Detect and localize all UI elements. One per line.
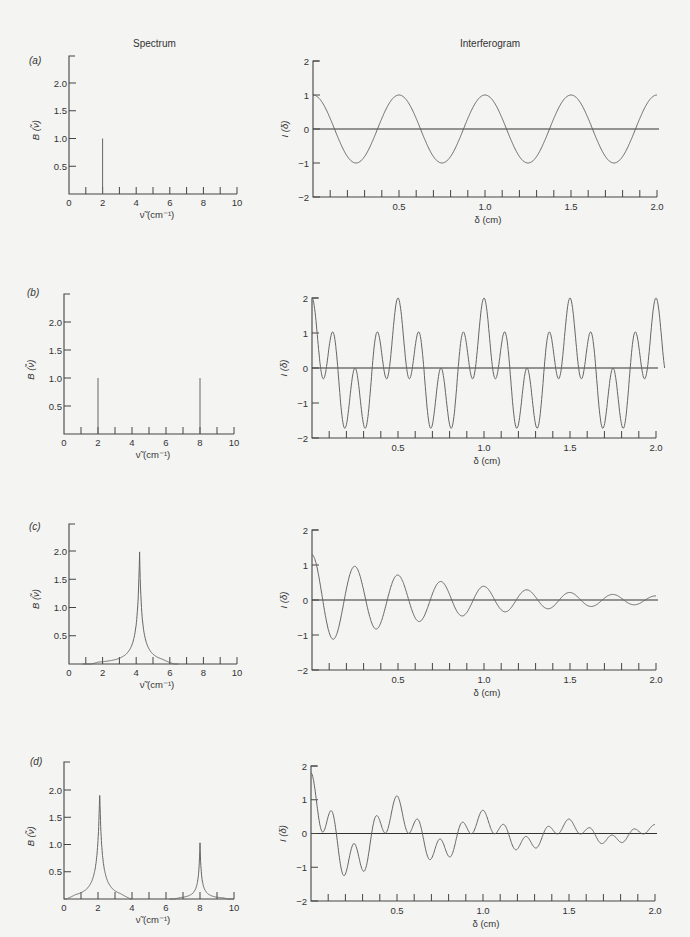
spectrum-x-label: ν̃ (cm⁻¹): [140, 679, 175, 690]
interferogram-y-tick: 2: [304, 56, 309, 67]
spectrum-x-tick: 0: [66, 667, 71, 678]
spectrum-plot: 02468100.51.01.52.0ν̃ (cm⁻¹)B (ν̃): [25, 762, 239, 925]
spectrum-y-tick: 0.5: [49, 866, 62, 877]
spectrum-y-tick: 1.5: [49, 812, 62, 823]
spectrum-x-tick: 0: [66, 197, 71, 208]
spectrum-x-tick: 10: [229, 437, 240, 448]
spectrum-y-tick: 0.5: [54, 161, 67, 172]
panel-label: (c): [29, 521, 41, 532]
figure-canvas: (a)02468100.51.01.52.0ν̃ (cm⁻¹)B (ν̃)0.5…: [0, 0, 690, 937]
spectrum-x-tick: 2: [95, 437, 100, 448]
interferogram-x-label: δ (cm): [473, 918, 500, 929]
interferogram-curve: [311, 773, 655, 876]
interferogram-y-tick: 0: [303, 363, 308, 374]
spectrum-x-tick: 4: [134, 197, 139, 208]
interferogram-y-tick: 0: [302, 828, 307, 839]
spectrum-axes: [64, 294, 234, 434]
interferogram-y-tick: 0: [304, 124, 309, 135]
spectrum-y-tick: 2.0: [54, 546, 67, 557]
spectrum-x-tick: 8: [201, 667, 206, 678]
spectrum-y-tick: 0.5: [54, 630, 67, 641]
spectrum-x-tick: 0: [61, 437, 66, 448]
panel-label: (a): [29, 55, 41, 66]
interferogram-x-tick: 2.0: [648, 905, 661, 916]
spectrum-axes: [69, 56, 237, 194]
spectrum-x-tick: 0: [61, 902, 66, 913]
spectrum-x-tick: 10: [232, 197, 243, 208]
spectrum-x-label: ν̃ (cm⁻¹): [140, 209, 175, 220]
spectrum-plot: 02468100.51.01.52.0ν̃ (cm⁻¹)B (ν̃): [30, 524, 242, 690]
interferogram-y-label: I (δ): [278, 592, 289, 609]
spectrum-y-tick: 1.0: [54, 133, 67, 144]
interferogram-y-label: I (δ): [277, 825, 288, 842]
spectrum-y-label: B (ν̃): [25, 360, 36, 380]
interferogram-x-tick: 0.5: [391, 674, 404, 685]
interferogram-y-tick: 1: [302, 794, 307, 805]
interferogram-x-tick: 1.5: [564, 201, 577, 212]
spectrum-y-tick: 1.5: [54, 105, 67, 116]
interferogram-x-tick: 1.0: [477, 442, 490, 453]
spectrum-plot: 02468100.51.01.52.0ν̃ (cm⁻¹)B (ν̃): [25, 294, 239, 460]
interferogram-x-tick: 1.5: [563, 442, 576, 453]
spectrum-axes: [64, 762, 234, 899]
spectrum-x-tick: 6: [167, 197, 172, 208]
interferogram-x-tick: 2.0: [650, 201, 663, 212]
interferogram-curve: [312, 298, 665, 428]
interferogram-y-label: I (δ): [279, 121, 290, 138]
spectrum-x-tick: 6: [163, 437, 168, 448]
interferogram-plot: 0.51.01.52.0−2−1012δ (cm)I (δ): [278, 293, 665, 467]
spectrum-y-label: B (ν̃): [30, 120, 41, 140]
spectrum-x-tick: 10: [232, 667, 243, 678]
interferogram-y-tick: −2: [297, 665, 308, 676]
interferogram-y-tick: 2: [303, 525, 308, 536]
interferogram-y-tick: 1: [304, 90, 309, 101]
spectrum-x-tick: 2: [95, 902, 100, 913]
interferogram-y-tick: 2: [303, 293, 308, 304]
spectrum-plot: 02468100.51.01.52.0ν̃ (cm⁻¹)B (ν̃): [30, 56, 242, 220]
interferogram-x-tick: 1.5: [562, 905, 575, 916]
spectrum-y-tick: 0.5: [49, 401, 62, 412]
interferogram-y-tick: 2: [302, 761, 307, 772]
spectral-band: [169, 843, 234, 899]
interferogram-y-tick: −1: [297, 630, 308, 641]
spectrum-y-tick: 1.5: [54, 574, 67, 585]
spectrum-y-tick: 1.0: [49, 839, 62, 850]
panel-d: (d)02468100.51.01.52.0ν̃ (cm⁻¹)B (ν̃)0.5…: [25, 756, 662, 929]
panel-b: (b)02468100.51.01.52.0ν̃ (cm⁻¹)B (ν̃)0.5…: [25, 287, 665, 466]
spectrum-y-label: B (ν̃): [30, 589, 41, 609]
interferogram-y-tick: −1: [297, 398, 308, 409]
panel-label: (b): [27, 287, 39, 298]
interferogram-x-label: δ (cm): [474, 687, 501, 698]
spectrum-axes: [69, 524, 237, 664]
spectrum-x-tick: 2: [100, 667, 105, 678]
panel-c: (c)02468100.51.01.52.0ν̃ (cm⁻¹)B (ν̃)0.5…: [29, 521, 663, 698]
interferogram-y-tick: −1: [298, 158, 309, 169]
spectrum-y-label: B (ν̃): [25, 826, 36, 846]
spectrum-y-tick: 1.5: [49, 345, 62, 356]
interferogram-y-tick: 1: [303, 560, 308, 571]
spectral-band: [64, 796, 132, 900]
spectrum-x-label: ν̃ (cm⁻¹): [136, 914, 171, 925]
spectrum-x-tick: 6: [167, 667, 172, 678]
panel-label: (d): [30, 756, 42, 767]
spectrum-y-tick: 1.0: [49, 373, 62, 384]
interferogram-y-label: I (δ): [278, 360, 289, 377]
interferogram-y-tick: −2: [296, 896, 307, 907]
spectrum-x-label: ν̃ (cm⁻¹): [136, 449, 171, 460]
spectrum-y-tick: 2.0: [49, 785, 62, 796]
spectrum-x-tick: 4: [134, 667, 139, 678]
interferogram-x-tick: 1.0: [478, 201, 491, 212]
spectrum-x-tick: 2: [100, 197, 105, 208]
interferogram-plot: 0.51.01.52.0−2−1012δ (cm)I (δ): [279, 56, 664, 226]
interferogram-x-tick: 0.5: [392, 201, 405, 212]
interferogram-plot: 0.51.01.52.0−2−1012δ (cm)I (δ): [277, 761, 662, 930]
interferogram-plot: 0.51.01.52.0−2−1012δ (cm)I (δ): [278, 525, 663, 699]
spectrum-y-tick: 1.0: [54, 602, 67, 613]
interferogram-x-tick: 1.0: [477, 674, 490, 685]
spectral-band: [82, 552, 178, 664]
spectrum-x-tick: 8: [201, 197, 206, 208]
panel-a: (a)02468100.51.01.52.0ν̃ (cm⁻¹)B (ν̃)0.5…: [29, 55, 664, 225]
spectrum-x-tick: 8: [197, 437, 202, 448]
spectrum-y-tick: 2.0: [54, 78, 67, 89]
interferogram-y-tick: 1: [303, 328, 308, 339]
